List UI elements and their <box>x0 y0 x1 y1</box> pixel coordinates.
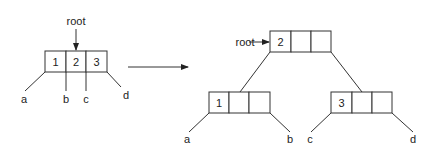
key-cell <box>352 92 372 113</box>
left-child-node: 1 <box>209 92 270 113</box>
child-edge <box>25 72 45 91</box>
child-label: d <box>123 89 129 101</box>
right-child-node: 3 <box>331 92 392 113</box>
root-label: root <box>67 15 86 27</box>
key-cell <box>249 92 270 113</box>
child-edge <box>189 113 209 132</box>
child-label: d <box>410 133 416 145</box>
child-edge <box>249 52 270 80</box>
b-tree-split-diagram: root 1 2 3 a b c d root 2 <box>0 0 444 158</box>
key: 1 <box>52 56 58 68</box>
key: 2 <box>277 36 283 48</box>
key-cell <box>372 92 392 113</box>
key: 3 <box>93 56 99 68</box>
child-label: b <box>63 93 69 105</box>
child-edge <box>107 72 121 87</box>
child-edge <box>311 113 331 132</box>
child-edge <box>392 113 413 132</box>
child-label: c <box>83 93 89 105</box>
child-label: b <box>287 133 293 145</box>
child-label: c <box>307 133 313 145</box>
after-tree: root 2 1 a b 3 c d <box>184 31 416 145</box>
child-label: a <box>184 133 191 145</box>
child-edge <box>270 113 290 132</box>
before-tree: root 1 2 3 a b c d <box>21 15 129 105</box>
full-node: 1 2 3 <box>45 51 107 72</box>
key: 1 <box>216 97 222 109</box>
key-cell <box>311 31 331 52</box>
key-cell <box>229 92 249 113</box>
key: 3 <box>338 97 344 109</box>
key-cell <box>291 31 311 52</box>
child-edge <box>240 80 249 92</box>
new-root-node: 2 <box>270 31 331 52</box>
child-edge <box>331 52 362 92</box>
child-label: a <box>21 93 28 105</box>
key: 2 <box>73 56 79 68</box>
